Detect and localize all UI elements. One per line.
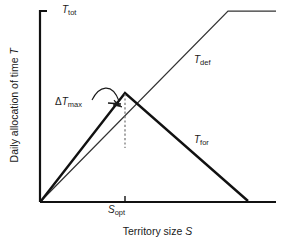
- delta-t-max-arrow: [92, 88, 119, 101]
- x-axis-tick-label-s-opt: Sopt: [108, 205, 125, 215]
- delta-t-max-arrow-shaft: [108, 103, 121, 104]
- series-label-t-for: Tfor: [194, 135, 209, 145]
- x-axis-title: Territory size S: [40, 226, 275, 237]
- series-line-t-for: [41, 93, 248, 201]
- s-opt-subscript: opt: [115, 208, 125, 217]
- delta-t-max-subscript: max: [68, 100, 82, 109]
- chart-figure: Daily allocation of time T Territory siz…: [0, 0, 282, 242]
- x-axis-title-text: Territory size: [123, 225, 185, 237]
- x-axis-title-variable: S: [185, 225, 192, 237]
- y-axis-title-text: Daily allocation of time: [8, 54, 20, 162]
- s-opt-symbol: S: [108, 204, 115, 215]
- annotation-label-delta-t-max: ΔTmax: [55, 97, 82, 107]
- delta-symbol: Δ: [55, 96, 62, 107]
- t-tot-subscript: tot: [68, 8, 76, 17]
- y-axis-title-variable: T: [8, 48, 20, 54]
- t-def-subscript: def: [200, 58, 210, 67]
- delta-t-max-symbol: T: [62, 96, 68, 107]
- y-axis-title: Daily allocation of time T: [9, 5, 20, 205]
- series-label-t-def: Tdef: [194, 55, 211, 65]
- chart-plot-area: [0, 0, 282, 242]
- t-for-subscript: for: [200, 138, 209, 147]
- y-axis-tick-label-t-tot: Ttot: [62, 5, 76, 15]
